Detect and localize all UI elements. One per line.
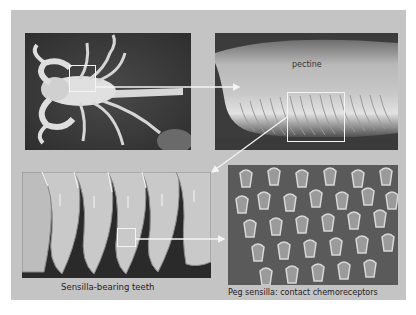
scorpion-overview-image bbox=[25, 33, 191, 150]
pectine-closeup-image: pectine bbox=[215, 33, 398, 150]
teeth-caption: Sensilla-bearing teeth bbox=[61, 282, 155, 292]
peg-sensilla-illustration bbox=[228, 165, 398, 285]
pectine-highlight-box bbox=[69, 65, 96, 92]
teeth-illustration bbox=[22, 172, 211, 278]
teeth-sem-image bbox=[22, 172, 211, 278]
sensilla-highlight-box bbox=[117, 228, 136, 247]
teeth-highlight-box bbox=[287, 92, 345, 142]
peg-sensilla-caption: Peg sensilla: contact chemoreceptors bbox=[228, 288, 378, 297]
pectine-label: pectine bbox=[292, 60, 322, 69]
peg-sensilla-sem-image bbox=[228, 165, 398, 285]
scorpion-illustration bbox=[25, 33, 191, 150]
